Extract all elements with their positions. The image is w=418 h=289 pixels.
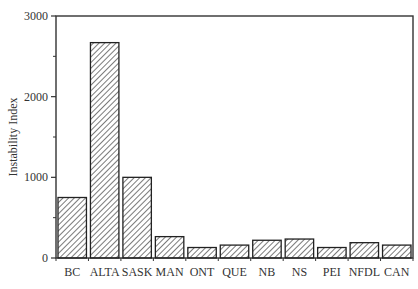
x-tick-label: QUE [222, 265, 247, 279]
y-axis: 0100020003000 [24, 9, 56, 265]
x-tick-label: NB [259, 265, 276, 279]
y-tick-label: 3000 [24, 9, 48, 23]
x-tick-label: MAN [156, 265, 184, 279]
x-tick-label: ALTA [90, 265, 120, 279]
y-axis-title: Instability Index [6, 98, 20, 177]
x-tick-label: ONT [190, 265, 215, 279]
x-tick-label: BC [64, 265, 80, 279]
x-axis: BCALTASASKMANONTQUENBNSPEINFDLCAN [56, 258, 413, 279]
bar-que [220, 245, 248, 258]
x-tick-label: CAN [384, 265, 410, 279]
bar-ont [188, 248, 216, 258]
bar-sask [123, 177, 151, 258]
y-tick-label: 1000 [24, 170, 48, 184]
x-tick-label: NFDL [349, 265, 380, 279]
bar-nb [253, 240, 281, 258]
x-tick-label: SASK [122, 265, 153, 279]
bar-ns [285, 239, 313, 258]
x-tick-label: PEI [323, 265, 341, 279]
bars [58, 43, 411, 258]
bar-man [155, 237, 183, 258]
bar-nfdl [350, 243, 378, 258]
bar-alta [90, 43, 118, 258]
y-tick-label: 2000 [24, 90, 48, 104]
x-tick-label: NS [292, 265, 307, 279]
bar-bc [58, 198, 86, 259]
bar-pei [318, 248, 346, 258]
bar-can [383, 245, 411, 258]
y-tick-label: 0 [42, 251, 48, 265]
bar-chart: 0100020003000 BCALTASASKMANONTQUENBNSPEI… [0, 0, 418, 289]
